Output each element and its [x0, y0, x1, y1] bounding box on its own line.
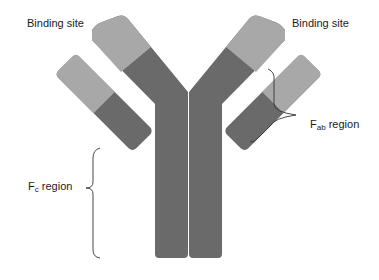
fab-region-label: Fab region — [310, 118, 359, 132]
fc-suffix: region — [39, 180, 73, 192]
fab-letter: F — [310, 118, 317, 130]
binding-site-label-left: Binding site — [27, 17, 84, 29]
antibody-diagram: Binding site Binding site Fab region Fc … — [0, 0, 379, 280]
fc-bracket — [86, 148, 100, 258]
binding-site-label-right: Binding site — [292, 17, 349, 29]
fc-region-label: Fc region — [28, 180, 72, 194]
fab-suffix: region — [326, 118, 360, 130]
antibody-shape — [0, 0, 379, 280]
fab-subscript: ab — [317, 123, 326, 132]
fc-letter: F — [28, 180, 35, 192]
